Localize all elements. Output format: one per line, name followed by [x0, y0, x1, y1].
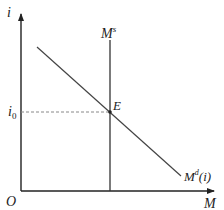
demand-label: Md(i) [183, 168, 211, 184]
supply-label: Ms [100, 24, 117, 41]
equilibrium-label: E [112, 98, 121, 113]
origin-label: O [6, 194, 16, 209]
x-axis-label: M [203, 196, 217, 210]
equilibrium-rate-label: i0 [8, 104, 17, 121]
equilibrium-point [108, 110, 112, 114]
y-axis-label: i [7, 5, 11, 20]
money-market-diagram: i O M Ms Md(i) E i0 [0, 0, 224, 210]
